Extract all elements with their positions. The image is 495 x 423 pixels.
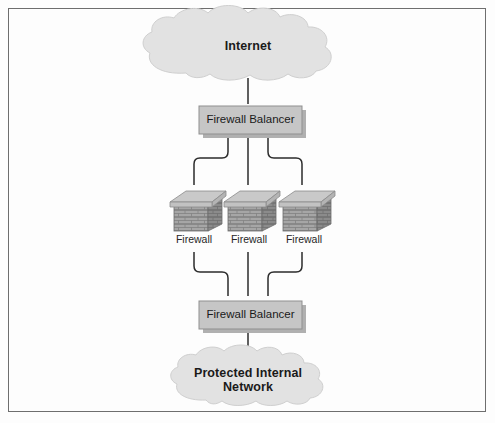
connector-firewall-3-to-bottom-balancer [268,252,302,296]
connector-top-balancer-to-firewall-3 [268,138,302,185]
connector-firewall-1-to-bottom-balancer [194,252,228,296]
firewall-icon-1 [170,191,226,231]
connector-group-bottom-fanin [194,252,302,296]
bottom-balancer-shape [199,301,306,333]
top-balancer-shape [199,106,306,138]
firewall-icon-2 [224,191,280,231]
internal-cloud-shape [171,345,323,406]
internet-cloud-shape [143,6,331,81]
diagram-page: Internet Firewall Balancer Firewall Fire… [0,0,495,423]
connector-group-top-fanout [194,138,302,185]
connector-top-balancer-to-firewall-1 [194,138,228,185]
network-diagram [0,0,495,423]
firewall-icon-3 [279,191,335,231]
